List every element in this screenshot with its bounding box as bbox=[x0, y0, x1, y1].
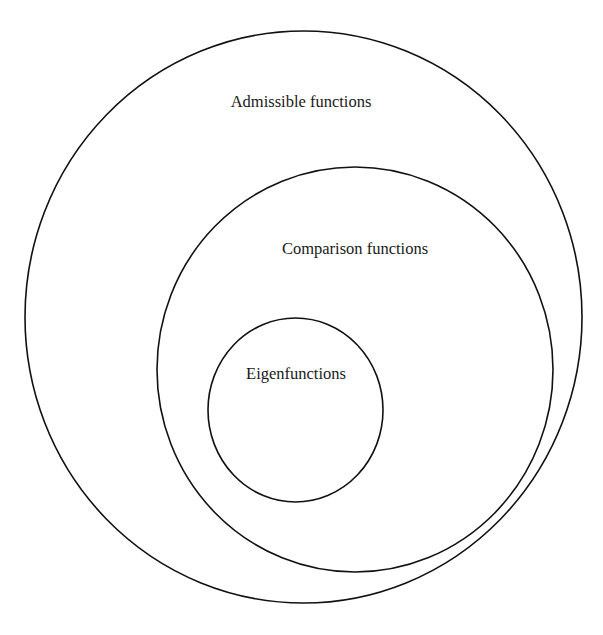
eigenfunctions-label: Eigenfunctions bbox=[246, 364, 346, 383]
nested-sets-diagram: Admissible functions Comparison function… bbox=[0, 0, 603, 635]
comparison-functions-label: Comparison functions bbox=[282, 239, 428, 258]
admissible-functions-label: Admissible functions bbox=[231, 92, 372, 111]
